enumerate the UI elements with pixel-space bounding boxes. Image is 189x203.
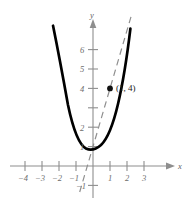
y-tick-label-6: 6 xyxy=(80,46,84,55)
tangency-point-marker xyxy=(107,86,113,92)
x-tick-label--2: −2 xyxy=(52,174,62,183)
x-axis-arrow-icon xyxy=(166,163,175,170)
y-tick-label-1: 1 xyxy=(80,143,84,152)
x-tick-label-1: 1 xyxy=(108,174,112,183)
x-tick-label--3: −3 xyxy=(35,174,45,183)
y-tick-label--1: −1 xyxy=(76,182,86,191)
x-tick-label--4: −4 xyxy=(18,174,28,183)
graph-figure: −4 −3 −2 −1 1 2 3 6 5 4 2 1 −1 y x (1, 4… xyxy=(0,0,189,203)
y-axis-arrow-icon xyxy=(90,19,97,28)
plot-canvas xyxy=(0,0,189,203)
x-axis-label: x xyxy=(178,162,182,171)
x-tick-label-2: 2 xyxy=(125,174,129,183)
tangency-point-label: (1, 4) xyxy=(116,84,136,93)
x-tick-label-3: 3 xyxy=(142,174,146,183)
y-axis-label: y xyxy=(90,11,94,20)
y-tick-label-5: 5 xyxy=(80,65,84,74)
y-tick-label-4: 4 xyxy=(80,85,84,94)
y-tick-label-2: 2 xyxy=(80,124,84,133)
